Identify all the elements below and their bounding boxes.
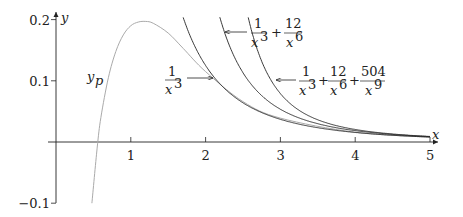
y-ticks: 0.20.1−0.1 <box>18 13 56 212</box>
y-tick-label: −0.1 <box>18 196 50 211</box>
svg-text:3: 3 <box>174 76 182 91</box>
svg-text:6: 6 <box>339 77 347 92</box>
svg-text:x: x <box>251 35 259 50</box>
svg-text:+: + <box>271 25 282 40</box>
label-three-term: 1 x 3 + 12 x 6 + 504 x 9 <box>276 64 386 98</box>
x-tick-label: 4 <box>351 148 359 163</box>
svg-text:y: y <box>86 69 95 84</box>
label-yp: y p <box>86 69 104 88</box>
x-tick-label: 5 <box>426 148 434 163</box>
svg-text:6: 6 <box>295 29 303 44</box>
svg-text:x: x <box>330 83 338 98</box>
svg-text:+: + <box>349 73 360 88</box>
label-1-over-x3: 1 x 3 <box>165 64 213 97</box>
svg-text:x: x <box>165 82 173 97</box>
svg-text:9: 9 <box>374 77 382 92</box>
y-tick-label: 0.2 <box>29 13 50 28</box>
svg-text:x: x <box>286 35 294 50</box>
svg-text:3: 3 <box>308 77 316 92</box>
svg-text:x: x <box>299 83 307 98</box>
chart-canvas: 12345 0.20.1−0.1 x y y p 1 x 3 1 x 3 + 1… <box>0 0 463 217</box>
x-ticks: 12345 <box>127 137 434 163</box>
svg-text:+: + <box>318 73 329 88</box>
svg-text:3: 3 <box>260 29 268 44</box>
x-tick-label: 3 <box>276 148 284 163</box>
x-axis-label: x <box>432 127 440 142</box>
label-two-term: 1 x 3 + 12 x 6 <box>225 16 303 50</box>
x-tick-label: 2 <box>202 148 210 163</box>
svg-text:x: x <box>365 83 373 98</box>
x-tick-label: 1 <box>127 148 135 163</box>
y-axis-label: y <box>60 10 69 25</box>
svg-text:p: p <box>95 73 104 88</box>
y-tick-label: 0.1 <box>29 74 50 89</box>
